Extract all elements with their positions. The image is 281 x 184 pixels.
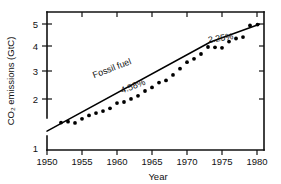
y-axis-title: CO₂ emissions (GtC) <box>5 37 16 126</box>
data-point <box>150 86 154 90</box>
co2-emissions-figure: 5 4 3 2 1 1950 1955 1960 1965 1970 1975 … <box>0 0 281 184</box>
data-point <box>256 23 260 27</box>
chart-canvas: 5 4 3 2 1 1950 1955 1960 1965 1970 1975 … <box>0 0 281 184</box>
data-point <box>59 121 63 125</box>
data-point <box>143 89 147 93</box>
y-tick-label-1: 1 <box>33 143 38 154</box>
data-point <box>248 24 252 28</box>
y-tick-label-4: 4 <box>33 41 38 52</box>
x-tick-label-1965: 1965 <box>141 156 162 167</box>
x-tick-label-1970: 1970 <box>176 156 197 167</box>
y-tick-label-2: 2 <box>33 94 38 105</box>
y-tick-label-5: 5 <box>33 19 38 30</box>
data-point <box>80 117 84 121</box>
data-point <box>206 45 210 49</box>
annotation-fossil-fuel: Fossil fuel <box>91 56 132 80</box>
data-point <box>87 114 91 118</box>
data-point <box>157 81 161 85</box>
data-point <box>129 97 133 101</box>
data-point <box>66 120 70 124</box>
data-point <box>115 101 119 105</box>
plot-annotations: Fossil fuel 4.58% 2.25% <box>91 31 234 95</box>
x-tick-label-1980: 1980 <box>246 156 267 167</box>
x-tick-label-1950: 1950 <box>36 156 57 167</box>
annotation-growth-rate-early: 4.58% <box>119 77 146 95</box>
data-point <box>192 57 196 61</box>
x-tick-labels: 1950 1955 1960 1965 1970 1975 1980 <box>36 156 267 167</box>
data-point <box>108 106 112 110</box>
x-tick-label-1975: 1975 <box>211 156 232 167</box>
x-axis-title: Year <box>148 171 167 182</box>
data-point <box>185 60 189 64</box>
data-point <box>234 37 238 41</box>
y-tick-labels: 5 4 3 2 1 <box>33 19 38 155</box>
data-point <box>213 45 217 49</box>
data-point <box>199 52 203 56</box>
data-point <box>241 35 245 39</box>
data-point <box>101 109 105 113</box>
data-point <box>94 111 98 115</box>
data-point <box>136 94 140 98</box>
y-tick-label-3: 3 <box>33 66 38 77</box>
data-point <box>73 121 77 125</box>
x-tick-label-1955: 1955 <box>71 156 92 167</box>
data-point <box>122 100 126 104</box>
data-point <box>171 73 175 77</box>
data-point <box>164 79 168 83</box>
data-point <box>178 67 182 71</box>
data-point <box>220 46 224 50</box>
x-tick-label-1960: 1960 <box>106 156 127 167</box>
